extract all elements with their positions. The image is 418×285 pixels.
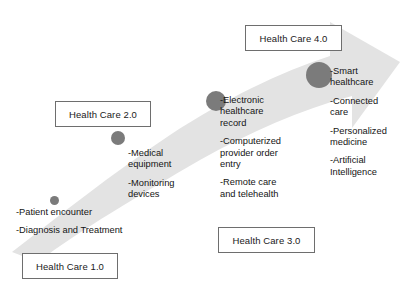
feature-line: healthcare	[220, 106, 312, 117]
feature-item: -Medical equipment	[128, 148, 204, 171]
feature-item: -Artificial Intelligence	[330, 155, 416, 178]
feature-line: medicine	[330, 137, 416, 148]
feature-line: -Artificial	[330, 155, 416, 166]
feature-line: -Medical	[128, 148, 204, 159]
stage-node-hc4	[306, 62, 332, 88]
feature-line: -Connected	[330, 96, 416, 107]
feature-line: devices	[128, 189, 204, 200]
stage-label-hc2[interactable]: Health Care 2.0	[55, 101, 151, 127]
feature-line: healthcare	[330, 77, 416, 88]
feature-line: -Electronic	[220, 95, 312, 106]
feature-item: -Connected care	[330, 96, 416, 119]
stage-node-hc2	[111, 131, 125, 145]
feature-item: -Personalized medicine	[330, 126, 416, 149]
feature-item: -Remote care and telehealth	[220, 177, 312, 200]
feature-line: record	[220, 118, 312, 129]
feature-line: -Remote care	[220, 177, 312, 188]
feature-line: equipment	[128, 159, 204, 170]
stage-label-hc4[interactable]: Health Care 4.0	[245, 25, 342, 51]
feature-item: -Diagnosis and Treatment	[16, 225, 186, 236]
stage-label-hc3[interactable]: Health Care 3.0	[218, 227, 315, 253]
feature-line: entry	[220, 159, 312, 170]
feature-line: and telehealth	[220, 189, 312, 200]
feature-list-hc4: -Smart healthcare -Connected care -Perso…	[330, 66, 416, 178]
stage-label-hc1[interactable]: Health Care 1.0	[22, 253, 118, 279]
feature-line: care	[330, 107, 416, 118]
feature-list-hc3: -Electronic healthcare record -Computeri…	[220, 95, 312, 200]
feature-line: provider order	[220, 148, 312, 159]
feature-list-hc1: -Patient encounter -Diagnosis and Treatm…	[16, 207, 186, 237]
feature-list-hc2: -Medical equipment -Monitoring devices	[128, 148, 204, 201]
feature-line: -Smart	[330, 66, 416, 77]
feature-line: -Computerized	[220, 136, 312, 147]
feature-item: -Computerized provider order entry	[220, 136, 312, 170]
diagram-canvas: Health Care 1.0 Health Care 2.0 Health C…	[0, 0, 418, 285]
feature-item: -Electronic healthcare record	[220, 95, 312, 129]
stage-node-hc1	[50, 196, 59, 205]
feature-item: -Smart healthcare	[330, 66, 416, 89]
feature-line: -Personalized	[330, 126, 416, 137]
feature-item: -Monitoring devices	[128, 178, 204, 201]
feature-line: -Monitoring	[128, 178, 204, 189]
feature-line: Intelligence	[330, 167, 416, 178]
feature-item: -Patient encounter	[16, 207, 186, 218]
